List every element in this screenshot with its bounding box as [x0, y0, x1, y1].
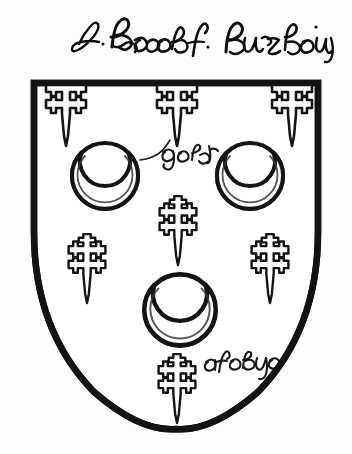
crescent-dexter-chief [72, 143, 138, 209]
armorial-plate: d. Jacobs Burzlow [0, 0, 352, 454]
heraldic-drawing [0, 0, 352, 454]
crescent-base-center [144, 274, 215, 345]
crescent-sinister-chief [217, 143, 283, 209]
shield-title [72, 19, 333, 62]
